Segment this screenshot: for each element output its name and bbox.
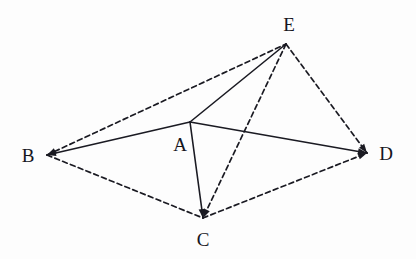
arrowhead-cd <box>357 153 367 159</box>
geometry-figure: ABCDE <box>0 0 416 259</box>
vertex-label-e: E <box>283 15 295 34</box>
edge-cd <box>203 153 367 218</box>
vertex-label-d: D <box>379 144 393 163</box>
edge-ec <box>203 44 286 218</box>
diagram-canvas <box>0 0 416 259</box>
edge-ba <box>47 122 190 155</box>
edge-ae <box>190 44 286 122</box>
edge-layer <box>47 44 367 218</box>
edge-be <box>47 44 286 155</box>
edge-bc <box>47 155 203 218</box>
vertex-label-a: A <box>173 135 187 154</box>
vertex-label-c: C <box>197 230 210 249</box>
edge-ed <box>286 44 367 153</box>
arrowhead-layer <box>47 144 367 218</box>
arrowhead-be <box>47 148 57 155</box>
edge-ad <box>190 122 367 153</box>
edge-ac <box>190 122 203 218</box>
vertex-label-b: B <box>22 146 35 165</box>
